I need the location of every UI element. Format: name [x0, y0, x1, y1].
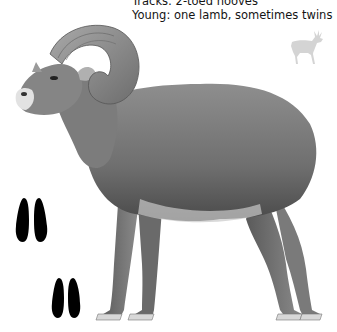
field-guide-page: Tracks: 2-toed hooves Young: one lamb, s…: [0, 0, 337, 332]
hoof-track-icon: [50, 276, 82, 320]
tracks-line: Tracks: 2-toed hooves: [132, 0, 332, 8]
hoof-track-icon: [14, 196, 50, 244]
